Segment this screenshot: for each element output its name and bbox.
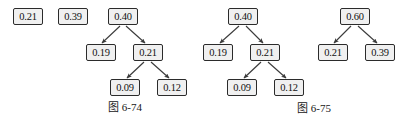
tree-edge-arrow xyxy=(220,26,239,43)
huffman-tree-figure-canvas: 0.210.390.400.190.210.090.12图 6-740.400.… xyxy=(0,0,407,123)
tree-edge-arrow xyxy=(127,62,144,78)
tree-edge-arrow xyxy=(102,26,120,43)
tree-node-n675-l2b: 0.12 xyxy=(274,79,304,96)
tree-node-n675-l1b: 0.21 xyxy=(250,44,280,61)
tree-node-n674-root: 0.40 xyxy=(108,8,138,25)
figure-caption-figure-6-75: 图 6-75 xyxy=(297,101,331,115)
tree-node-n675-root2: 0.60 xyxy=(340,8,370,25)
tree-edge-arrow xyxy=(246,26,263,43)
tree-node-n675-r1b: 0.39 xyxy=(365,44,395,61)
tree-edge-arrow xyxy=(268,62,286,78)
tree-node-n674-a: 0.21 xyxy=(13,8,43,25)
tree-node-n674-l2a: 0.09 xyxy=(110,79,140,96)
tree-node-n675-l2a: 0.09 xyxy=(227,79,257,96)
tree-edge-arrow xyxy=(334,26,351,43)
tree-edge-arrow xyxy=(358,26,377,43)
tree-node-n674-l2b: 0.12 xyxy=(157,79,187,96)
tree-edge-arrow xyxy=(244,62,261,78)
tree-node-n674-b: 0.39 xyxy=(58,8,88,25)
tree-node-n674-l1a: 0.19 xyxy=(86,44,116,61)
figure-caption-figure-6-74: 图 6-74 xyxy=(108,100,142,114)
tree-edge-arrow xyxy=(126,26,145,43)
tree-edge-arrow xyxy=(151,62,169,78)
tree-node-n675-root: 0.40 xyxy=(228,8,258,25)
tree-node-n674-l1b: 0.21 xyxy=(133,44,163,61)
tree-node-n675-r1a: 0.21 xyxy=(318,44,348,61)
tree-node-n675-l1a: 0.19 xyxy=(203,44,233,61)
